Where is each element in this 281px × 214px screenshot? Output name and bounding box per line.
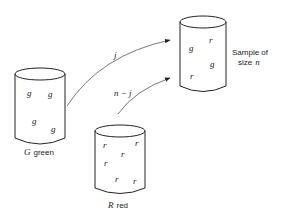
arrow-label-j: j: [113, 50, 117, 60]
urn-sampling-diagram: g g g g Ggreen r r r r r r Rred g r g r …: [0, 0, 281, 214]
sample-ball: r: [190, 71, 194, 81]
green-urn: [15, 68, 65, 144]
green-ball: g: [27, 88, 32, 98]
sample-urn: [180, 16, 226, 92]
arrow-label-n-minus-j: n − j: [114, 88, 132, 98]
green-ball: g: [32, 116, 37, 126]
green-ball: g: [51, 124, 56, 134]
red-ball: r: [135, 138, 139, 148]
red-urn-label: Rred: [107, 200, 128, 210]
green-urn-label: Ggreen: [24, 147, 54, 157]
red-ball: r: [133, 176, 137, 186]
green-ball: g: [48, 89, 53, 99]
sample-ball: r: [209, 35, 213, 45]
sample-label-line1: Sample of: [232, 48, 269, 57]
sample-label-line2: sizen: [238, 57, 260, 67]
red-ball: r: [104, 158, 108, 168]
sample-ball: g: [210, 59, 215, 69]
red-ball: r: [103, 140, 107, 150]
sample-ball: g: [189, 43, 194, 53]
red-ball: r: [115, 174, 119, 184]
red-urn: [95, 125, 145, 194]
red-ball: r: [121, 149, 125, 159]
